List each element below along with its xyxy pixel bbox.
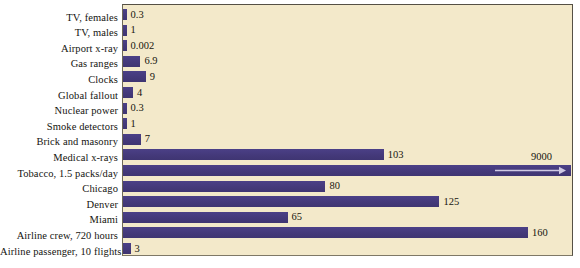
bar-row: 9 [123, 69, 572, 85]
bar-value-label: 0.3 [131, 7, 144, 23]
bar [123, 71, 146, 82]
bar-value-label: 9 [150, 69, 155, 85]
bar [123, 243, 131, 254]
bar [123, 181, 325, 192]
bar-value-label: 103 [388, 147, 404, 163]
bar-value-label: 7 [145, 131, 150, 147]
bar-value-label: 0.3 [131, 100, 144, 116]
bar-value-label: 160 [532, 225, 548, 241]
category-label: Chicago [0, 181, 118, 197]
category-label: Airline passenger, 10 flights [0, 244, 118, 260]
bar-row: 3 [123, 241, 572, 257]
bar-value-label: 1 [131, 116, 136, 132]
bar [123, 118, 127, 129]
bar-value-label: 4 [137, 85, 142, 101]
bar-row: 65 [123, 209, 572, 225]
bar-value-label: 9000 [531, 150, 552, 164]
bar-value-label: 80 [329, 178, 340, 194]
bars-layer: 0.310.0026.9940.317103900080125651603 [123, 5, 572, 255]
bar-row: 7 [123, 131, 572, 147]
bar-row: 0.3 [123, 7, 572, 23]
bar [123, 9, 127, 20]
bar [123, 103, 127, 114]
bar-row: 1 [123, 116, 572, 132]
category-label: TV, females [0, 10, 118, 26]
category-label: Brick and masonry [0, 134, 118, 150]
bar-row: 103 [123, 147, 572, 163]
category-label: Smoke detectors [0, 119, 118, 135]
bar [123, 212, 288, 223]
category-label: Tobacco, 1.5 packs/day [0, 166, 118, 182]
category-label: Airport x-ray [0, 41, 118, 57]
bar-value-label: 125 [443, 194, 459, 210]
bar-row: 0.002 [123, 38, 572, 54]
category-label: Gas ranges [0, 56, 118, 72]
category-label: Global fallout [0, 88, 118, 104]
bar-row: 4 [123, 85, 572, 101]
bar [123, 56, 140, 67]
category-label: Denver [0, 197, 118, 213]
bar [123, 25, 127, 36]
bar [123, 87, 133, 98]
bar-value-label: 0.002 [131, 38, 155, 54]
bar-row: 160 [123, 225, 572, 241]
bar [123, 40, 127, 51]
bar-row: 9000 [123, 163, 572, 179]
bar [123, 196, 439, 207]
bar-row: 80 [123, 178, 572, 194]
bar [123, 165, 571, 176]
category-label: TV, males [0, 25, 118, 41]
bar-chart: 0.310.0026.9940.317103900080125651603 TV… [0, 0, 580, 268]
category-labels: TV, femalesTV, malesAirport x-rayGas ran… [0, 4, 118, 256]
bar-value-label: 3 [135, 241, 140, 257]
bar [123, 149, 384, 160]
category-label: Airline crew, 720 hours [0, 228, 118, 244]
plot-area: 0.310.0026.9940.317103900080125651603 [122, 4, 573, 256]
bar-row: 6.9 [123, 53, 572, 69]
category-label: Miami [0, 212, 118, 228]
bar-value-label: 65 [292, 209, 303, 225]
bar-row: 1 [123, 22, 572, 38]
category-label: Nuclear power [0, 103, 118, 119]
category-label: Clocks [0, 72, 118, 88]
bar-row: 125 [123, 194, 572, 210]
category-label: Medical x-rays [0, 150, 118, 166]
bar [123, 134, 141, 145]
bar [123, 227, 528, 238]
bar-row: 0.3 [123, 100, 572, 116]
bar-value-label: 1 [131, 22, 136, 38]
bar-value-label: 6.9 [144, 53, 157, 69]
